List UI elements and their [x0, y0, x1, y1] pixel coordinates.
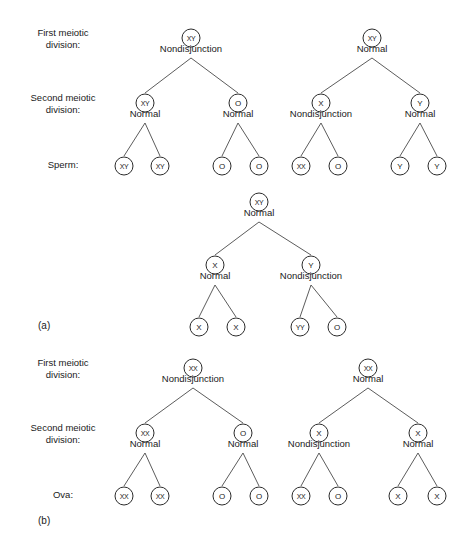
genotype-label: O	[240, 429, 246, 438]
node-a-mid-sperm-3: YY	[291, 318, 309, 336]
meiosis-event-label: Normal	[223, 108, 254, 119]
edge-node-b-left-root-to-node-b-left-sec-1	[145, 388, 193, 423]
row-label-line2: division:	[46, 39, 80, 50]
node-a-left-sperm-4: O	[250, 157, 268, 175]
edge-node-a-mid-sec-1-to-node-a-mid-sperm-2	[215, 285, 236, 317]
genotype-label: X	[233, 323, 239, 332]
edge-node-a-left-sec-1-to-node-a-left-sperm-2	[145, 123, 160, 156]
node-b-left-ova-2: XX	[151, 487, 169, 505]
row-label-second-meiotic-a: Second meioticdivision:	[31, 92, 96, 115]
node-b-right-sec-2: XNormal	[403, 424, 434, 449]
edge-node-a-mid-root-to-node-a-mid-sec-2	[259, 222, 311, 255]
tree-a-left: XYNondisjunctionXYNormalXYXYONormalOO	[115, 29, 268, 175]
tree-b-left: XXNondisjunctionXXNormalXXXXONormalOO	[115, 359, 268, 505]
node-b-left-sec-1: XXNormal	[130, 424, 161, 449]
genotype-label: XX	[120, 493, 129, 500]
genotype-label: XX	[364, 365, 373, 372]
genotype-label: XY	[141, 100, 150, 107]
genotype-label: Y	[308, 261, 314, 270]
edge-node-b-right-sec-2-to-node-b-right-ova-4	[418, 453, 437, 486]
edge-node-a-right-sec-2-to-node-a-right-sperm-3	[400, 123, 420, 156]
node-a-mid-sperm-1: X	[190, 318, 208, 336]
edge-node-b-left-sec-2-to-node-b-left-ova-3	[222, 453, 243, 486]
panel-caption: (a)	[38, 320, 50, 331]
meiosis-event-label: Normal	[353, 373, 384, 384]
genotype-label: Y	[417, 99, 423, 108]
meiosis-event-label: Nondisjunction	[162, 373, 224, 384]
row-label-line1: Ova:	[53, 489, 73, 500]
genotype-label: YY	[296, 324, 305, 331]
edge-node-b-left-sec-1-to-node-b-left-ova-2	[145, 453, 160, 486]
edge-node-a-left-sec-1-to-node-a-left-sperm-1	[124, 123, 145, 156]
genotype-label: XX	[297, 163, 306, 170]
edge-node-b-right-sec-1-to-node-b-right-ova-1	[301, 453, 319, 486]
nondisjunction-figure: First meioticdivision:Second meioticdivi…	[0, 0, 470, 557]
genotype-label: O	[235, 99, 241, 108]
meiosis-event-label: Normal	[357, 43, 388, 54]
node-b-left-root: XXNondisjunction	[162, 359, 224, 384]
node-b-left-ova-1: XX	[115, 487, 133, 505]
meiosis-event-label: Normal	[200, 270, 231, 281]
node-b-left-ova-3: O	[213, 487, 231, 505]
meiosis-event-label: Nondisjunction	[160, 43, 222, 54]
node-a-mid-root: XYNormal	[244, 193, 275, 218]
genotype-label: X	[434, 492, 440, 501]
node-b-left-ova-4: O	[250, 487, 268, 505]
genotype-label: XY	[255, 199, 264, 206]
node-a-mid-sec-2: YNondisjunction	[280, 256, 342, 281]
genotype-label: XX	[141, 430, 150, 437]
edge-node-a-right-sec-2-to-node-a-right-sperm-4	[420, 123, 437, 156]
row-label-second-meiotic-b: Second meioticdivision:	[31, 422, 96, 445]
node-a-right-sperm-1: XX	[292, 157, 310, 175]
tree-a-middle: XYNormalXNormalXXYNondisjunctionYYO	[190, 193, 346, 336]
node-b-right-ova-1: XX	[292, 487, 310, 505]
edge-node-b-right-sec-2-to-node-b-right-ova-3	[398, 453, 418, 486]
genotype-label: O	[335, 492, 341, 501]
edge-node-b-right-root-to-node-b-right-sec-2	[368, 388, 418, 423]
meiosis-event-label: Nondisjunction	[280, 270, 342, 281]
genotype-label: O	[335, 162, 341, 171]
node-b-right-ova-2: O	[329, 487, 347, 505]
node-a-right-sec-1: XNondisjunction	[290, 94, 352, 119]
genotype-label: X	[318, 99, 324, 108]
edge-node-a-right-root-to-node-a-right-sec-2	[372, 58, 420, 93]
node-a-mid-sec-1: XNormal	[200, 256, 231, 281]
node-a-left-sperm-3: O	[213, 157, 231, 175]
row-label-first-meiotic-a: First meioticdivision:	[37, 27, 88, 50]
node-b-left-sec-2: ONormal	[228, 424, 259, 449]
row-label-gamete-a: Sperm:	[48, 159, 79, 170]
node-b-right-ova-3: X	[389, 487, 407, 505]
edge-node-a-right-root-to-node-a-right-sec-1	[321, 58, 372, 93]
meiosis-event-label: Normal	[130, 108, 161, 119]
edge-node-a-left-sec-2-to-node-a-left-sperm-4	[238, 123, 259, 156]
edge-node-a-mid-root-to-node-a-mid-sec-1	[215, 222, 259, 255]
node-a-right-sperm-4: Y	[428, 157, 446, 175]
edge-node-a-left-sec-2-to-node-a-left-sperm-3	[222, 123, 238, 156]
node-a-right-sperm-3: Y	[391, 157, 409, 175]
node-a-left-sec-1: XYNormal	[130, 94, 161, 119]
genotype-label: O	[219, 492, 225, 501]
edge-node-a-mid-sec-2-to-node-a-mid-sperm-3	[300, 285, 311, 317]
genotype-label: XY	[187, 35, 196, 42]
genotype-label: X	[316, 429, 322, 438]
tree-a-right: XYNormalXNondisjunctionXXOYNormalYY	[290, 29, 446, 175]
genotype-label: O	[334, 323, 340, 332]
edge-node-a-mid-sec-2-to-node-a-mid-sperm-4	[311, 285, 337, 317]
genotype-label: XX	[189, 365, 198, 372]
edge-node-b-right-sec-1-to-node-b-right-ova-2	[319, 453, 338, 486]
edge-node-a-right-sec-1-to-node-a-right-sperm-2	[321, 123, 338, 156]
node-a-mid-sperm-4: O	[328, 318, 346, 336]
meiosis-event-label: Normal	[405, 108, 436, 119]
tree-b-right: XXNormalXNondisjunctionXXOXNormalXX	[288, 359, 446, 505]
node-a-left-root: XYNondisjunction	[160, 29, 222, 54]
row-label-line2: division:	[46, 104, 80, 115]
edge-node-a-left-root-to-node-a-left-sec-1	[145, 58, 191, 93]
genotype-label: X	[212, 261, 218, 270]
row-label-line2: division:	[46, 369, 80, 380]
node-a-left-sperm-1: XY	[115, 157, 133, 175]
node-a-mid-sperm-2: X	[227, 318, 245, 336]
genotype-label: XY	[368, 35, 377, 42]
edge-node-b-left-sec-2-to-node-b-left-ova-4	[243, 453, 259, 486]
node-b-right-sec-1: XNondisjunction	[288, 424, 350, 449]
panel-caption: (b)	[38, 515, 50, 526]
